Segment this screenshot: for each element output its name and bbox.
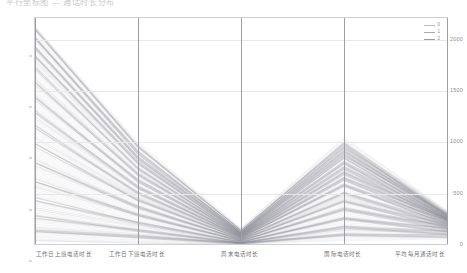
x-tick-label-0: 工作日上班电话时长 (36, 250, 92, 258)
plot-area: 012 (34, 17, 448, 245)
y-tick-mark (29, 55, 32, 56)
chart-root: 平行坐标图 — 通话时长分布 012 工作日上班电话时长工作日下班电话时长周末电… (0, 0, 467, 273)
legend-line-swatch (424, 25, 435, 26)
legend-label: 1 (437, 30, 440, 35)
y-tick-mark (29, 106, 32, 107)
y-tick-mark (29, 209, 32, 210)
y-tick-label: 2000 (450, 36, 463, 42)
legend-label: 0 (437, 23, 440, 28)
y-tick-label: 0 (460, 241, 463, 247)
x-tick-label-3: 国际电话时长 (324, 250, 361, 258)
y-tick-mark (29, 158, 32, 159)
x-axis-labels: 工作日上班电话时长工作日下班电话时长周末电话时长国际电话时长平均每月通话时长 (0, 250, 467, 268)
page-title: 平行坐标图 — 通话时长分布 (6, 0, 306, 6)
x-tick-label-1: 工作日下班电话时长 (109, 250, 165, 258)
parallel-axis-3[interactable] (344, 18, 345, 244)
parallel-axis-2[interactable] (241, 18, 242, 244)
legend-line-swatch (424, 32, 435, 33)
x-tick-label-4: 平均每月通话时长 (395, 250, 445, 258)
parallel-axis-1[interactable] (138, 18, 139, 244)
legend-item-0[interactable]: 0 (424, 23, 440, 28)
y-tick-label: 1000 (450, 138, 463, 144)
y-tick-label: 500 (453, 190, 463, 196)
x-tick-label-2: 周末电话时长 (221, 250, 258, 258)
y-tick-label: 1500 (450, 87, 463, 93)
y-axis (0, 17, 32, 245)
parallel-axis-0[interactable] (35, 18, 36, 244)
parallel-axis-4[interactable] (447, 18, 448, 244)
legend-item-1[interactable]: 1 (424, 30, 440, 35)
